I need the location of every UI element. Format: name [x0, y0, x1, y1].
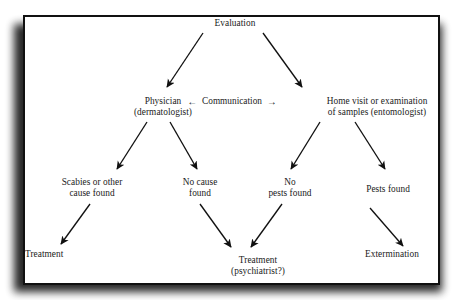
edge-evaluation-to-physician	[167, 33, 203, 87]
node-no-pests-line1: No	[284, 177, 295, 187]
node-home-visit: Home visit or examination of samples (en…	[297, 96, 440, 118]
diagram-canvas: Evaluation Physician (dermatologist) ← C…	[0, 0, 455, 300]
node-treatment-center-line1: Treatment	[239, 255, 277, 265]
node-treatment-psychiatrist: Treatment (psychiatrist?)	[203, 255, 313, 277]
node-physician-line2: (dermatologist)	[108, 107, 218, 118]
node-scabies-or-other-cause-found: Scabies or other cause found	[37, 177, 147, 199]
node-treatment-left-line1: Treatment	[25, 249, 63, 259]
edge-home-visit-to-no-pests	[291, 122, 320, 169]
diagram-frame: Evaluation Physician (dermatologist) ← C…	[23, 15, 440, 285]
node-home-visit-line1: Home visit or examination	[327, 96, 428, 106]
node-extermination-line1: Extermination	[365, 249, 419, 259]
node-pests-found: Pests found	[343, 184, 433, 195]
node-evaluation-line1: Evaluation	[215, 18, 256, 28]
edge-evaluation-to-home-visit	[263, 33, 302, 87]
node-no-pests-line2: pests found	[245, 188, 335, 199]
node-communication-label: Communication	[202, 96, 262, 107]
node-no-pests-found: No pests found	[245, 177, 335, 199]
node-evaluation: Evaluation	[185, 18, 285, 29]
node-pests-found-line1: Pests found	[366, 184, 410, 194]
node-treatment-center-line2: (psychiatrist?)	[203, 266, 313, 277]
node-scabies-line1: Scabies or other	[62, 177, 123, 187]
node-home-visit-line2: of samples (entomologist)	[297, 107, 440, 118]
arrow-right-icon: →	[267, 96, 277, 107]
flowchart-arrows	[25, 17, 438, 283]
edge-physician-to-scabies	[117, 122, 147, 169]
edge-scabies-to-treatment-left	[61, 204, 90, 244]
node-communication: ← Communication →	[162, 96, 302, 107]
edge-no-cause-to-treatment-center	[200, 204, 231, 247]
arrow-left-icon: ←	[187, 96, 197, 107]
edge-no-pests-to-treatment-center	[251, 204, 282, 247]
edge-physician-to-no-cause	[170, 122, 197, 169]
node-no-cause-line1: No cause	[183, 177, 218, 187]
edge-pests-found-to-extermination	[370, 208, 403, 246]
edge-home-visit-to-pests-found	[355, 122, 385, 169]
node-scabies-line2: cause found	[37, 188, 147, 199]
node-no-cause-found: No cause found	[160, 177, 240, 199]
node-extermination: Extermination	[365, 249, 440, 260]
node-no-cause-line2: found	[160, 188, 240, 199]
node-treatment-left: Treatment	[23, 249, 105, 260]
